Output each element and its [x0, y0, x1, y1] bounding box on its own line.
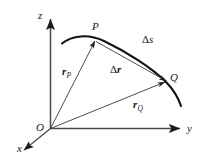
- y-axis-label: y: [187, 123, 192, 134]
- vector-r-q-label: rQ: [133, 99, 143, 110]
- point-p-label: P: [92, 21, 99, 32]
- vector-r-p-symbol: r: [62, 65, 66, 77]
- vector-r-p-subscript: P: [67, 71, 72, 80]
- vector-delta-r-label: Δr: [110, 64, 121, 75]
- delta-s-symbol: s: [149, 33, 153, 45]
- x-axis-label: x: [17, 143, 22, 154]
- vector-diagram-figure: z y x O P Q rP rQ Δr Δs: [0, 0, 200, 158]
- arc-length-delta-s-label: Δs: [142, 34, 153, 45]
- delta-r-symbol: r: [117, 63, 121, 75]
- vector-r-p: [51, 41, 96, 129]
- vector-r-q-subscript: Q: [138, 104, 143, 113]
- vector-r-q-symbol: r: [133, 98, 137, 110]
- z-axis-label: z: [38, 10, 42, 21]
- vector-delta-r: [96, 42, 167, 82]
- point-q-label: Q: [170, 72, 178, 83]
- vector-r-p-label: rP: [62, 66, 71, 77]
- vector-r-q: [51, 82, 166, 129]
- origin-label: O: [36, 122, 44, 133]
